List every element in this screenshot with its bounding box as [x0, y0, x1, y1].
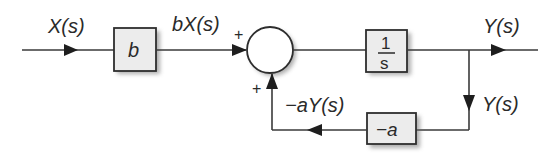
integrator-numerator: 1 — [381, 34, 390, 53]
gain-b-label: b — [128, 39, 139, 61]
feedback-gain-label: −a — [376, 119, 398, 140]
scaled-input-label: bX(s) — [172, 13, 220, 35]
feedback-branch-label: Y(s) — [482, 93, 519, 115]
block-diagram: X(s) b bX(s) + + 1 s Y(s) Y(s) −a −aY(s) — [0, 0, 558, 153]
input-label: X(s) — [47, 15, 85, 37]
output-label: Y(s) — [483, 15, 520, 37]
feedback-signal-label: −aY(s) — [285, 94, 344, 116]
sum-input-arrow-icon — [232, 44, 247, 56]
sum-bottom-sign: + — [252, 80, 261, 97]
summing-junction — [247, 27, 293, 73]
input-arrow-icon — [64, 44, 78, 56]
integrator-denominator: s — [380, 54, 389, 73]
sum-top-sign: + — [234, 26, 243, 43]
output-arrow-icon — [491, 44, 506, 56]
feedback-branch-arrow-icon — [463, 95, 475, 111]
feedback-signal-arrow-icon — [307, 124, 322, 136]
